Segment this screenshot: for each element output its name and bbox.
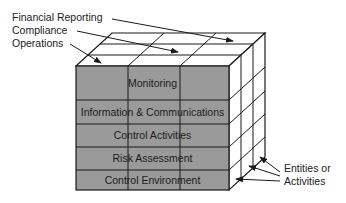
arrow-entity-back-icon: [260, 157, 280, 172]
entities-label-line2: Activities: [284, 175, 325, 187]
arrow-entity-front-icon: [236, 179, 280, 181]
component-risk-assessment: Risk Assessment: [113, 152, 193, 164]
coso-cube-diagram: Monitoring Information & Communications …: [0, 0, 346, 203]
objective-financial-reporting: Financial Reporting: [12, 11, 103, 23]
component-information-communications: Information & Communications: [81, 106, 225, 118]
objective-operations: Operations: [12, 37, 63, 49]
component-monitoring: Monitoring: [128, 77, 177, 89]
component-control-activities: Control Activities: [114, 129, 192, 141]
arrow-entity-middle-icon: [249, 166, 280, 176]
entities-label-line1: Entities or: [284, 162, 331, 174]
component-control-environment: Control Environment: [105, 174, 201, 186]
objective-compliance: Compliance: [12, 24, 68, 36]
